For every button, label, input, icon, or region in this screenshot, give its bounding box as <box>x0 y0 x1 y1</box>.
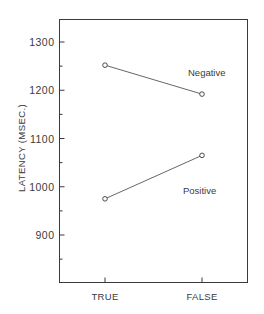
data-point-marker <box>200 153 205 158</box>
line-chart: 9001000110012001300 TRUEFALSE NegativePo… <box>0 0 264 314</box>
data-point-marker <box>103 63 108 68</box>
series-group: NegativePositive <box>103 63 226 201</box>
series-positive: Positive <box>103 153 217 201</box>
data-point-marker <box>200 92 205 97</box>
series-label: Negative <box>188 67 226 78</box>
y-axis-title: LATENCY (MSEC.) <box>16 104 27 192</box>
y-tick-label: 1000 <box>29 181 54 193</box>
y-tick-label: 900 <box>35 229 54 241</box>
x-category-label-false: FALSE <box>186 291 217 302</box>
series-label: Positive <box>183 185 216 196</box>
x-axis: TRUEFALSE <box>91 278 217 303</box>
y-tick-label: 1300 <box>29 36 54 48</box>
data-point-marker <box>103 197 108 202</box>
x-category-label-true: TRUE <box>91 291 118 302</box>
y-tick-label: 1200 <box>29 84 54 96</box>
plot-frame <box>60 20 248 283</box>
y-tick-label: 1100 <box>30 133 55 145</box>
series-negative: Negative <box>103 63 226 97</box>
